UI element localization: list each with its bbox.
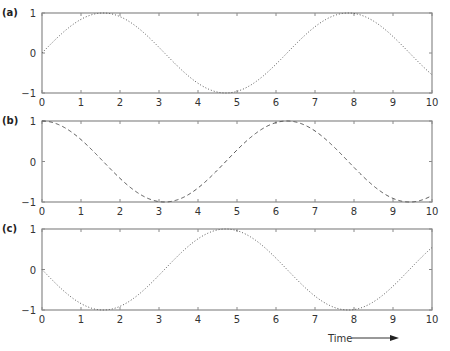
y-tick-label: 0 [30,48,36,59]
x-tick-label: 7 [312,97,318,108]
x-tick-label: 10 [426,206,439,217]
x-tick-label: 7 [312,206,318,217]
x-tick-label: 10 [426,97,439,108]
x-tick-label: 3 [156,97,162,108]
x-tick-label: 5 [234,206,240,217]
x-tick-label: 0 [39,97,45,108]
x-tick-label: 8 [351,206,357,217]
x-axis-label: Time [327,333,352,344]
plot-frame [42,13,432,93]
y-tick-label: −1 [21,197,36,208]
x-tick-label: 5 [234,314,240,325]
plot-frame [42,121,432,202]
curve-sin(t) [42,13,432,93]
x-tick-label: 8 [351,314,357,325]
x-tick-label: 1 [78,314,84,325]
panel-a: 012345678910−101(a) [2,7,438,108]
x-tick-label: 7 [312,314,318,325]
y-tick-label: 1 [30,8,36,19]
x-tick-label: 3 [156,314,162,325]
x-tick-label: 0 [39,314,45,325]
x-tick-label: 9 [390,97,396,108]
figure: 012345678910−101(a) 012345678910−101(b) … [0,0,450,351]
x-tick-label: 9 [390,314,396,325]
y-tick-label: 1 [30,116,36,127]
time-axis-label: Time [327,333,399,344]
x-tick-label: 4 [195,97,201,108]
x-tick-label: 2 [117,314,123,325]
x-tick-label: 1 [78,97,84,108]
x-tick-label: 6 [273,314,279,325]
x-tick-label: 9 [390,206,396,217]
panel-label: (a) [2,7,18,18]
y-tick-label: 0 [30,157,36,168]
x-tick-label: 6 [273,206,279,217]
x-tick-label: 4 [195,206,201,217]
x-tick-label: 1 [78,206,84,217]
x-tick-label: 2 [117,206,123,217]
y-tick-label: −1 [21,305,36,316]
x-tick-label: 2 [117,97,123,108]
arrow-head-icon [390,335,399,341]
y-tick-label: −1 [21,88,36,99]
plot-frame [42,229,432,310]
panel-b: 012345678910−101(b) [2,115,438,217]
y-tick-label: 1 [30,224,36,235]
panel-label: (c) [2,223,17,234]
curve-cos(t) [42,121,432,202]
curve--sin(t) [42,229,432,310]
panel-label: (b) [2,115,18,126]
x-tick-label: 8 [351,97,357,108]
x-tick-label: 4 [195,314,201,325]
x-tick-label: 5 [234,97,240,108]
x-tick-label: 3 [156,206,162,217]
y-tick-label: 0 [30,265,36,276]
panel-c: 012345678910−101(c) [2,223,438,325]
x-tick-label: 10 [426,314,439,325]
x-tick-label: 6 [273,97,279,108]
x-tick-label: 0 [39,206,45,217]
